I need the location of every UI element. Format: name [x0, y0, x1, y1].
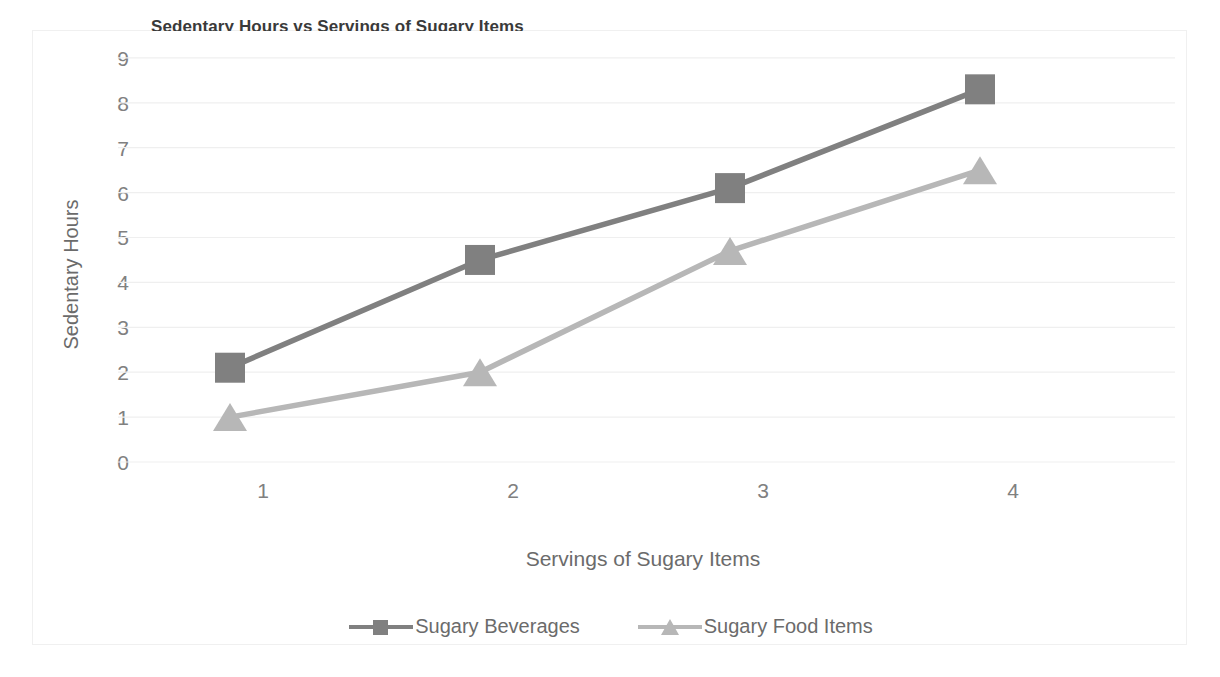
y-axis-title: Sedentary Hours	[60, 175, 83, 375]
x-tick-label-3: 3	[723, 479, 803, 503]
chart-title: Sedentary Hours vs Servings of Sugary It…	[151, 17, 751, 31]
chart-legend: Sugary Beverages Sugary Food Items	[1, 615, 1220, 638]
legend-label-sugary-beverages: Sugary Beverages	[415, 615, 580, 638]
x-tick-label-2: 2	[473, 479, 553, 503]
legend-label-sugary-food-items: Sugary Food Items	[704, 615, 873, 638]
y-tick-label-4: 4	[95, 271, 129, 295]
x-tick-label-1: 1	[223, 479, 303, 503]
x-axis-title: Servings of Sugary Items	[443, 547, 843, 571]
y-tick-label-3: 3	[95, 316, 129, 340]
y-tick-label-2: 2	[95, 361, 129, 385]
y-tick-label-6: 6	[95, 182, 129, 206]
chart-container: Sedentary Hours vs Servings of Sugary It…	[32, 30, 1187, 645]
y-tick-label-8: 8	[95, 92, 129, 116]
x-tick-label-4: 4	[973, 479, 1053, 503]
y-tick-label-7: 7	[95, 137, 129, 161]
y-tick-label-1: 1	[95, 406, 129, 430]
legend-swatch-triangle-icon	[638, 617, 702, 637]
legend-swatch-square-icon	[349, 617, 413, 637]
y-tick-label-5: 5	[95, 226, 129, 250]
y-tick-label-0: 0	[95, 451, 129, 475]
legend-item-sugary-beverages[interactable]: Sugary Beverages	[349, 615, 580, 638]
y-tick-label-9: 9	[95, 47, 129, 71]
legend-item-sugary-food-items[interactable]: Sugary Food Items	[638, 615, 873, 638]
